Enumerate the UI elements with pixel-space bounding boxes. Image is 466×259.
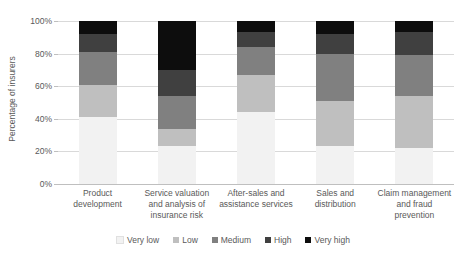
bar-segment[interactable]	[79, 85, 117, 118]
legend-swatch	[212, 237, 218, 243]
legend-label: Low	[182, 236, 198, 245]
bar-group	[375, 21, 454, 184]
x-axis-tick-label: After-sales andassistance services	[216, 188, 295, 210]
x-axis-label-line: insurance risk	[137, 210, 216, 221]
chart-legend: Very lowLowMediumHighVery high	[0, 233, 466, 247]
bar-segment[interactable]	[79, 34, 117, 52]
x-axis-tick-label: Service valuationand analysis ofinsuranc…	[137, 188, 216, 221]
stacked-bar[interactable]	[316, 21, 354, 184]
stacked-bar[interactable]	[395, 21, 433, 184]
y-axis-tick-label: 40%	[12, 115, 52, 124]
stacked-bar-chart: Percentage of insurers 0%20%40%60%80%100…	[0, 0, 466, 259]
legend-swatch	[173, 237, 179, 243]
x-axis-label-line: and analysis of	[137, 199, 216, 210]
legend-item[interactable]: High	[265, 236, 291, 245]
legend-swatch	[305, 237, 311, 243]
plot-area	[58, 21, 454, 184]
bar-group	[137, 21, 216, 184]
x-axis-label-line: distribution	[296, 199, 375, 210]
y-axis-tick-label: 0%	[12, 180, 52, 189]
y-axis-title-container: Percentage of insurers	[0, 0, 20, 259]
bar-segment[interactable]	[395, 96, 433, 148]
bar-segment[interactable]	[395, 32, 433, 55]
bar-segment[interactable]	[395, 55, 433, 96]
bar-segment[interactable]	[158, 70, 196, 96]
legend-item[interactable]: Very high	[305, 236, 349, 245]
x-axis-label-line: assistance services	[216, 199, 295, 210]
x-axis-line	[58, 184, 454, 185]
legend-label: Medium	[221, 236, 251, 245]
x-axis-label-line: prevention	[375, 210, 454, 221]
x-axis-label-line: After-sales and	[216, 188, 295, 199]
bar-segment[interactable]	[158, 96, 196, 129]
x-axis-label-line: Product	[58, 188, 137, 199]
legend-swatch	[116, 236, 124, 244]
y-axis-tick-label: 20%	[12, 147, 52, 156]
bar-segment[interactable]	[158, 129, 196, 147]
y-axis-tick-label: 80%	[12, 50, 52, 59]
x-axis-label-line: Service valuation	[137, 188, 216, 199]
bar-segment[interactable]	[79, 21, 117, 34]
bar-segment[interactable]	[316, 34, 354, 54]
bar-series-container	[58, 21, 454, 184]
stacked-bar[interactable]	[237, 21, 275, 184]
bar-segment[interactable]	[237, 47, 275, 75]
bar-segment[interactable]	[237, 112, 275, 184]
x-axis-tick-label: Claim managementand fraudprevention	[375, 188, 454, 221]
bar-segment[interactable]	[158, 21, 196, 70]
bar-segment[interactable]	[316, 101, 354, 147]
bar-segment[interactable]	[79, 117, 117, 184]
bar-group	[296, 21, 375, 184]
bar-segment[interactable]	[158, 146, 196, 183]
bar-segment[interactable]	[395, 148, 433, 184]
bar-segment[interactable]	[395, 21, 433, 32]
x-axis-label-line: and fraud	[375, 199, 454, 210]
bar-segment[interactable]	[316, 21, 354, 34]
x-axis-label-line: development	[58, 199, 137, 210]
legend-swatch	[265, 237, 271, 243]
bar-segment[interactable]	[316, 54, 354, 101]
bar-group	[216, 21, 295, 184]
bar-segment[interactable]	[237, 21, 275, 32]
y-axis-tick-label: 100%	[12, 17, 52, 26]
x-axis-tick-label: Productdevelopment	[58, 188, 137, 210]
legend-item[interactable]: Low	[173, 236, 198, 245]
bar-segment[interactable]	[79, 52, 117, 85]
legend-item[interactable]: Very low	[116, 236, 159, 245]
bar-segment[interactable]	[316, 146, 354, 183]
legend-label: Very low	[127, 236, 159, 245]
x-axis-tick-label: Sales anddistribution	[296, 188, 375, 210]
x-axis-tick-labels: ProductdevelopmentService valuationand a…	[58, 188, 454, 230]
y-axis-tick-label: 60%	[12, 82, 52, 91]
legend-label: Very high	[314, 236, 349, 245]
bar-group	[58, 21, 137, 184]
legend-item[interactable]: Medium	[212, 236, 251, 245]
x-axis-label-line: Claim management	[375, 188, 454, 199]
bar-segment[interactable]	[237, 32, 275, 47]
stacked-bar[interactable]	[158, 21, 196, 184]
legend-label: High	[274, 236, 291, 245]
bar-segment[interactable]	[237, 75, 275, 112]
x-axis-label-line: Sales and	[296, 188, 375, 199]
stacked-bar[interactable]	[79, 21, 117, 184]
